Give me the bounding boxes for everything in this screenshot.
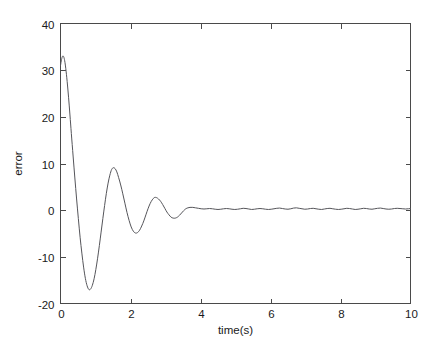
x-tick-label: 6	[268, 308, 274, 320]
y-tick-label: 20	[42, 112, 55, 124]
y-tick-label: 10	[42, 159, 55, 171]
y-tick-label: 0	[48, 205, 54, 217]
y-tick-label: -10	[38, 252, 55, 264]
x-tick-label: 0	[58, 308, 64, 320]
x-tick-label: 4	[198, 308, 205, 320]
figure-canvas: 0246810 -20-10010203040 time(s) error	[0, 0, 436, 349]
x-axis-title: time(s)	[218, 324, 253, 336]
y-tick-label: 30	[42, 65, 55, 77]
x-tick-label: 8	[338, 308, 344, 320]
y-tick-label: 40	[42, 19, 55, 31]
y-axis-title: error	[12, 151, 24, 175]
x-tick-label: 10	[405, 308, 418, 320]
y-tick-label: -20	[38, 299, 55, 311]
chart-background	[0, 0, 436, 349]
error-vs-time-line-chart: 0246810 -20-10010203040 time(s) error	[0, 0, 436, 349]
x-tick-label: 2	[128, 308, 134, 320]
